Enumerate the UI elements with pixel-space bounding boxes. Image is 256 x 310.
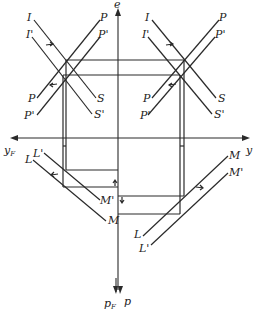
label-S: S: [218, 92, 226, 105]
e-axis: [113, 8, 123, 294]
label-L: L: [133, 228, 141, 241]
label-M: M: [228, 149, 241, 162]
shift-arrow-icon: [46, 42, 53, 46]
label-M-prime: M': [99, 194, 114, 207]
label-I: I: [144, 11, 150, 24]
yf-axis-label: yF: [3, 144, 16, 158]
label-P-prime: P': [97, 28, 108, 41]
arrow-down-icon: [113, 286, 118, 294]
label-I: I: [26, 11, 32, 24]
p-axis-label: p: [124, 295, 131, 308]
label-P-prime: P': [214, 28, 225, 41]
lm-curve-shifted: [151, 173, 228, 245]
guide-lines-bottom: [63, 170, 184, 214]
pp-curve: [37, 20, 100, 98]
label-P: P: [27, 92, 36, 105]
shift-arrow-icon: [166, 42, 173, 46]
label-I-prime: I': [25, 28, 33, 41]
label-L-prime: L': [32, 147, 43, 160]
e-axis-label: e: [114, 0, 121, 11]
label-I-prime: I': [141, 28, 149, 41]
guide-lines-top: [63, 60, 184, 75]
y-axis: [10, 135, 250, 141]
label-P-prime: P': [23, 109, 34, 122]
pf-axis-label: pF: [104, 297, 117, 310]
guide-lines-right: [180, 60, 184, 214]
label-S: S: [97, 92, 105, 105]
arrow-down-icon: [118, 286, 123, 294]
label-S-prime: S': [214, 108, 225, 121]
lm-curve: [33, 160, 106, 221]
label-M: M: [107, 214, 120, 227]
label-P: P: [142, 92, 151, 105]
arrow-right-icon: [242, 135, 250, 141]
label-P: P: [218, 11, 227, 24]
label-M-prime: M': [228, 166, 243, 179]
shift-arrow-icon: [50, 83, 57, 87]
label-L: L: [24, 153, 32, 166]
label-S-prime: S': [94, 108, 105, 121]
shift-arrow-icon: [51, 172, 58, 177]
is-curve: [34, 20, 96, 98]
arrow-left-icon: [10, 135, 18, 141]
shift-arrow-icon: [113, 180, 117, 186]
four-quadrant-diagram: e y yF pF p I S I' S' P P P' P' I S I' S…: [0, 0, 256, 310]
bottom-right-panel: [143, 156, 228, 245]
label-P-prime: P': [139, 109, 150, 122]
y-axis-label: y: [245, 144, 253, 157]
shift-arrow-icon: [120, 197, 124, 203]
label-P: P: [99, 11, 108, 24]
label-L-prime: L': [138, 242, 149, 255]
pp-curve-shifted: [37, 37, 100, 115]
